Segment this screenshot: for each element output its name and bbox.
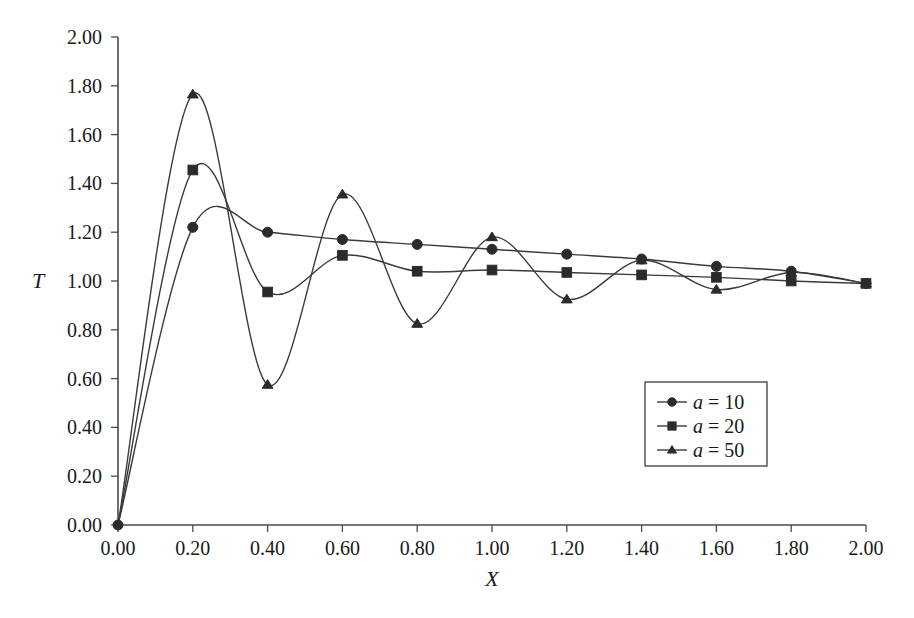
data-point-marker: [712, 273, 722, 283]
x-axis-tick-labels: 0.000.200.400.600.801.001.201.401.601.80…: [101, 537, 884, 559]
x-tick-label: 0.40: [250, 537, 285, 559]
x-tick-label: 1.20: [549, 537, 584, 559]
x-tick-label: 2.00: [849, 537, 884, 559]
data-point-marker: [412, 266, 422, 276]
x-tick-label: 1.40: [624, 537, 659, 559]
series-line-square: [118, 163, 866, 525]
data-point-marker: [188, 165, 198, 175]
x-tick-label: 0.00: [101, 537, 136, 559]
y-tick-label: 1.40: [67, 172, 102, 194]
legend-item-label[interactable]: a = 10: [693, 391, 744, 413]
x-axis-ticks: [118, 525, 866, 532]
y-axis-tick-labels: 0.000.200.400.600.801.001.201.401.601.80…: [67, 26, 102, 536]
x-tick-label: 0.20: [175, 537, 210, 559]
data-point-marker: [637, 270, 647, 280]
legend-item-label[interactable]: a = 20: [693, 415, 744, 437]
x-tick-label: 1.80: [774, 537, 809, 559]
data-point-marker: [263, 287, 273, 297]
data-point-marker: [562, 249, 572, 259]
data-point-marker: [412, 239, 422, 249]
y-axis-ticks: [111, 37, 118, 525]
y-tick-label: 1.60: [67, 124, 102, 146]
data-point-marker: [786, 276, 796, 286]
data-point-marker: [338, 251, 348, 261]
legend-marker-square: [668, 422, 676, 430]
y-tick-label: 1.20: [67, 221, 102, 243]
y-tick-label: 0.40: [67, 416, 102, 438]
legend-marker-circle: [668, 398, 677, 407]
legend-item-label[interactable]: a = 50: [693, 439, 744, 461]
data-point-marker: [188, 222, 198, 232]
y-axis-title: T: [32, 268, 46, 293]
data-point-marker: [412, 319, 423, 328]
y-tick-label: 0.20: [67, 465, 102, 487]
y-tick-label: 2.00: [67, 26, 102, 48]
chart-legend[interactable]: a = 10a = 20a = 50: [645, 382, 767, 466]
data-point-marker: [487, 244, 497, 254]
data-point-marker: [337, 235, 347, 245]
data-point-marker: [263, 227, 273, 237]
data-point-marker: [562, 268, 572, 278]
x-tick-label: 0.80: [400, 537, 435, 559]
x-tick-label: 0.60: [325, 537, 360, 559]
data-point-marker: [711, 261, 721, 271]
chart-container: 0.000.200.400.600.801.001.201.401.601.80…: [0, 0, 914, 618]
x-tick-label: 1.60: [699, 537, 734, 559]
y-tick-label: 1.00: [67, 270, 102, 292]
y-tick-label: 1.80: [67, 75, 102, 97]
data-point-marker: [113, 520, 123, 530]
line-chart: 0.000.200.400.600.801.001.201.401.601.80…: [0, 0, 914, 618]
data-point-marker: [487, 265, 497, 275]
y-tick-label: 0.80: [67, 319, 102, 341]
y-tick-label: 0.60: [67, 368, 102, 390]
x-tick-label: 1.00: [475, 537, 510, 559]
y-tick-label: 0.00: [67, 514, 102, 536]
x-axis-title: X: [484, 566, 500, 591]
